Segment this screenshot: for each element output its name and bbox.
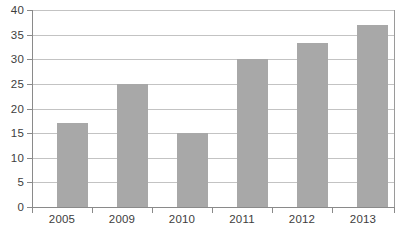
y-tick-mark [27, 182, 32, 183]
y-tick-label: 40 [0, 5, 24, 17]
x-tick-mark [332, 208, 333, 213]
x-tick-label-2011: 2011 [212, 214, 272, 226]
bar-2005 [57, 123, 88, 207]
x-tick-mark [152, 208, 153, 213]
bar-chart: 40 35 30 25 20 15 10 5 0 [0, 0, 404, 236]
y-axis-tick-labels: 40 35 30 25 20 15 10 5 0 [0, 0, 24, 236]
x-tick-label-2010: 2010 [152, 214, 212, 226]
bars-layer [32, 10, 395, 207]
y-tick-label: 25 [0, 79, 24, 91]
right-border-line [394, 10, 395, 208]
y-tick-label: 20 [0, 104, 24, 116]
x-tick-mark [92, 208, 93, 213]
y-tick-mark [27, 84, 32, 85]
y-axis-line [32, 10, 33, 208]
bar-2010 [177, 133, 208, 207]
y-tick-label: 15 [0, 128, 24, 140]
x-tick-mark [32, 208, 33, 213]
bar-2013 [357, 25, 388, 207]
x-tick-label-2009: 2009 [92, 214, 152, 226]
y-tick-label: 5 [0, 177, 24, 189]
x-axis-line [32, 207, 395, 208]
y-tick-label: 10 [0, 153, 24, 165]
y-tick-label: 35 [0, 30, 24, 42]
x-tick-label-2005: 2005 [32, 214, 92, 226]
x-tick-mark [394, 208, 395, 213]
y-tick-mark [27, 10, 32, 11]
y-tick-mark [27, 158, 32, 159]
y-tick-mark [27, 59, 32, 60]
y-tick-mark [27, 133, 32, 134]
x-tick-label-2012: 2012 [272, 214, 332, 226]
y-tick-mark [27, 35, 32, 36]
x-tick-mark [212, 208, 213, 213]
bar-2011 [237, 59, 268, 207]
bar-2012 [297, 43, 328, 207]
bar-2009 [117, 84, 148, 207]
x-tick-mark [272, 208, 273, 213]
y-tick-label: 0 [0, 202, 24, 214]
x-tick-label-2013: 2013 [332, 214, 394, 226]
y-tick-label: 30 [0, 54, 24, 66]
y-tick-mark [27, 109, 32, 110]
